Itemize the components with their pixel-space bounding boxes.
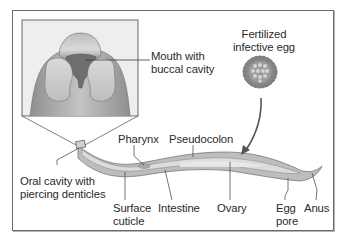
label-fertilized-egg: Fertilized infective egg bbox=[232, 28, 296, 53]
head-inset bbox=[22, 20, 150, 117]
label-pseudocolon: Pseudocolon bbox=[169, 133, 233, 146]
infection-arrow bbox=[241, 98, 261, 155]
egg-illustration bbox=[243, 56, 277, 88]
label-mouth-buccal-cavity: Mouth with buccal cavity bbox=[151, 50, 214, 75]
label-egg-pore: Egg pore bbox=[276, 202, 298, 227]
worm-body bbox=[76, 140, 322, 181]
label-ovary: Ovary bbox=[217, 202, 247, 215]
label-anus: Anus bbox=[304, 202, 329, 215]
label-surface-cuticle: Surface cuticle bbox=[113, 202, 151, 227]
label-oral-cavity: Oral cavity with piercing denticles bbox=[20, 175, 106, 200]
label-intestine: Intestine bbox=[158, 202, 200, 215]
label-pharynx: Pharynx bbox=[118, 133, 159, 146]
